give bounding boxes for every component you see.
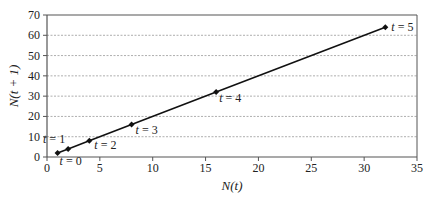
x-tick-label: 10	[147, 161, 159, 175]
chart: 01020304050607005101520253035 t = 0t = 1…	[0, 0, 428, 201]
x-tick-label: 15	[200, 161, 212, 175]
x-tick-label: 5	[97, 161, 103, 175]
y-tick-label: 20	[28, 109, 40, 123]
point-label: t = 0	[60, 154, 82, 168]
point-label: t = 3	[136, 123, 158, 137]
y-tick-label: 10	[28, 130, 40, 144]
y-tick-label: 50	[28, 49, 40, 63]
data-series	[55, 24, 389, 156]
point-label: t = 2	[94, 138, 116, 152]
point-label: t = 5	[391, 20, 413, 34]
point-label: t = 1	[43, 132, 65, 146]
x-tick-label: 35	[411, 161, 423, 175]
point-labels: t = 0t = 1t = 2t = 3t = 4t = 5	[43, 20, 413, 168]
x-tick-label: 25	[305, 161, 317, 175]
y-tick-label: 0	[34, 150, 40, 164]
x-tick-label: 0	[44, 161, 50, 175]
series-line	[58, 27, 386, 153]
data-point-marker	[129, 122, 135, 128]
y-tick-label: 30	[28, 89, 40, 103]
y-tick-label: 60	[28, 28, 40, 42]
x-tick-label: 30	[358, 161, 370, 175]
y-tick-label: 40	[28, 69, 40, 83]
data-point-marker	[382, 24, 388, 30]
x-axis-label: N(t)	[221, 178, 243, 193]
y-tick-label: 70	[28, 8, 40, 22]
y-axis-label: N(t + 1)	[6, 65, 21, 109]
point-label: t = 4	[219, 91, 241, 105]
data-point-marker	[86, 138, 92, 144]
x-tick-label: 20	[252, 161, 264, 175]
data-point-marker	[65, 146, 71, 152]
